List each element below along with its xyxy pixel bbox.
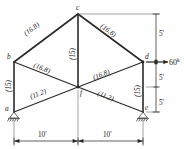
force-label-fd: (16.8)	[92, 68, 112, 82]
dim-label-middle-5ft: 5'	[159, 74, 164, 82]
load-magnitude-label: 60k	[169, 57, 180, 67]
member-cd	[78, 14, 143, 62]
node-label-c: c	[76, 3, 80, 12]
dim-label-right-span-10ft: 10'	[103, 131, 111, 139]
force-label-fe: (11.2)	[96, 89, 115, 103]
force-label-de: (15)	[134, 84, 142, 97]
force-label-bc: (16.8)	[22, 20, 41, 37]
node-label-a: a	[5, 104, 9, 113]
joint-d	[142, 61, 145, 64]
dim-label-top-5ft: 5'	[159, 30, 164, 38]
support-e	[136, 112, 149, 121]
node-label-d: d	[145, 52, 149, 61]
node-label-e: e	[145, 103, 149, 112]
member-af	[14, 87, 78, 112]
node-label-b: b	[7, 52, 11, 61]
force-label-cf: (15)	[69, 47, 77, 60]
figure-canvas: b c d e a f (15) (16.8) (16.8) (15) (15)…	[0, 0, 192, 149]
support-a	[7, 112, 20, 121]
force-label-ab: (15)	[5, 79, 13, 92]
load-arrowhead-icon	[163, 60, 168, 65]
vertical-dimension-chain	[78, 14, 160, 112]
truss-diagram: b c d e a f (15) (16.8) (16.8) (15) (15)…	[0, 0, 192, 149]
dim-label-left-span-10ft: 10'	[38, 131, 46, 139]
dim-label-bottom-5ft: 5'	[159, 99, 164, 107]
force-label-af: (11.2)	[29, 87, 48, 101]
